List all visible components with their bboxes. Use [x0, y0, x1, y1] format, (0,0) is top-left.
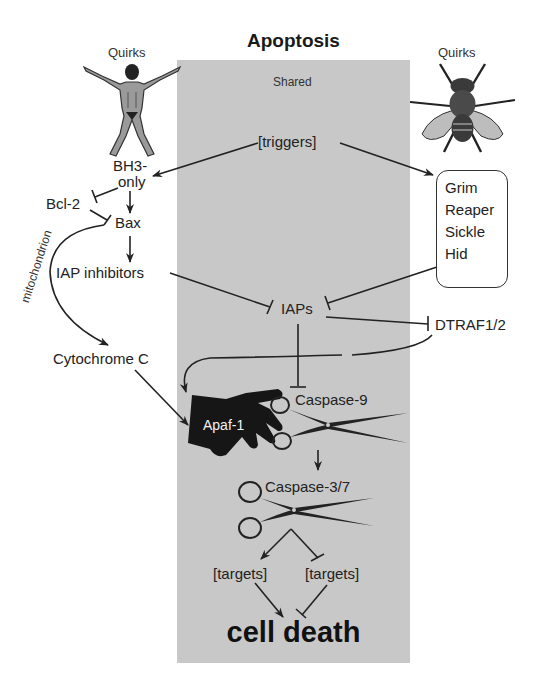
dtraf-label: DTRAF1/2	[435, 316, 506, 333]
cytochrome-c-label: Cytochrome C	[53, 350, 149, 367]
pathway-connectors	[0, 0, 552, 683]
bh3-label-line2: only	[118, 173, 146, 190]
targets-right-label: [targets]	[305, 565, 359, 582]
triggers-label: [triggers]	[258, 133, 316, 150]
caspase9-label: Caspase-9	[295, 391, 368, 408]
iap-inhibitors-label: IAP inhibitors	[56, 264, 144, 281]
fly-iap-antagonists-box: Grim Reaper Sickle Hid	[436, 170, 508, 288]
grim-label: Grim	[445, 177, 507, 199]
hid-label: Hid	[445, 243, 507, 265]
bcl2-label: Bcl-2	[46, 195, 80, 212]
targets-left-label: [targets]	[213, 565, 267, 582]
reaper-label: Reaper	[445, 199, 507, 221]
apaf1-label: Apaf-1	[203, 417, 244, 433]
sickle-label: Sickle	[445, 221, 507, 243]
bh3-label-line1: BH3-	[113, 157, 147, 174]
cell-death-label: cell death	[177, 616, 410, 649]
iaps-label: IAPs	[281, 300, 313, 317]
bax-label: Bax	[115, 214, 141, 231]
caspase37-label: Caspase-3/7	[265, 478, 350, 495]
